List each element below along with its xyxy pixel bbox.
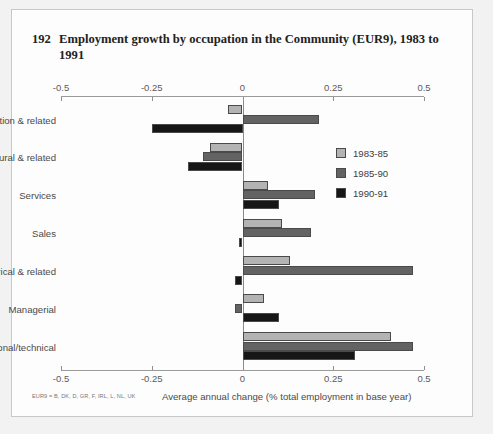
legend-swatch <box>336 188 346 198</box>
bar-group: Production & related <box>61 105 424 143</box>
axis-tick-label: 0.5 <box>404 373 444 384</box>
axis-tick-label: 0 <box>223 373 263 384</box>
bar <box>243 200 279 209</box>
bar <box>243 342 414 351</box>
axis-tick-label: 0.25 <box>313 82 353 93</box>
axis-tick-label: -0.25 <box>132 373 172 384</box>
axis-tick-top <box>424 97 425 101</box>
axis-tick-top <box>152 97 153 101</box>
legend-item: 1985-90 <box>336 165 388 181</box>
bar-group: Professional/technical <box>61 332 424 370</box>
bar <box>188 162 242 171</box>
bar-group: Sales <box>61 219 424 257</box>
axis-tick-label: -0.25 <box>132 82 172 93</box>
bar <box>243 313 279 322</box>
bar <box>243 294 265 303</box>
chart-legend: 1983-851985-901990-91 <box>336 145 388 205</box>
axis-line-bottom <box>61 370 424 371</box>
legend-label: 1983-85 <box>353 148 388 159</box>
bar <box>243 228 312 237</box>
axis-tick-label: 0.5 <box>404 82 444 93</box>
axis-tick-label: 0 <box>223 82 263 93</box>
bar <box>239 238 243 247</box>
figure-number: 192 <box>32 32 51 47</box>
bar <box>152 124 243 133</box>
bar <box>243 115 319 124</box>
bar <box>210 143 243 152</box>
bar <box>243 266 414 275</box>
legend-swatch <box>336 148 346 158</box>
category-label: Clerical & related <box>0 266 56 277</box>
legend-label: 1985-90 <box>353 168 388 179</box>
bar <box>228 105 243 114</box>
figure-panel: 192 Employment growth by occupation in t… <box>11 9 473 417</box>
axis-tick-top <box>333 97 334 101</box>
bar <box>243 181 268 190</box>
chart-plot-area: -0.5-0.2500.250.5 -0.5-0.2500.250.5 Prod… <box>61 96 424 371</box>
axis-tick-label: 0.25 <box>313 373 353 384</box>
category-label: Services <box>19 190 56 201</box>
category-label: Agricultural & related <box>0 152 56 163</box>
x-axis-title: Average annual change (% total employmen… <box>162 391 411 402</box>
axis-tick-label: -0.5 <box>41 373 81 384</box>
category-label: Production & related <box>0 115 56 126</box>
legend-item: 1990-91 <box>336 185 388 201</box>
bar <box>235 304 242 313</box>
bar <box>243 332 392 341</box>
axis-tick-top <box>243 97 244 101</box>
bar <box>203 152 243 161</box>
bar <box>243 219 283 228</box>
bar <box>235 276 242 285</box>
page-title: Employment growth by occupation in the C… <box>59 32 454 63</box>
legend-label: 1990-91 <box>353 188 388 199</box>
legend-item: 1983-85 <box>336 145 388 161</box>
figure-footnote: EUR9 = B, DK, D, GR, F, IRL, L, NL, UK <box>32 393 135 399</box>
bar <box>243 256 290 265</box>
category-label: Sales <box>32 228 56 239</box>
bar <box>243 351 356 360</box>
legend-swatch <box>336 168 346 178</box>
category-label: Managerial <box>9 304 56 315</box>
category-label: Professional/technical <box>0 342 56 353</box>
bar-group: Clerical & related <box>61 256 424 294</box>
axis-tick-bottom <box>424 366 425 370</box>
axis-tick-top <box>61 97 62 101</box>
axis-tick-label: -0.5 <box>41 82 81 93</box>
bar-group: Managerial <box>61 294 424 332</box>
bar <box>243 190 316 199</box>
